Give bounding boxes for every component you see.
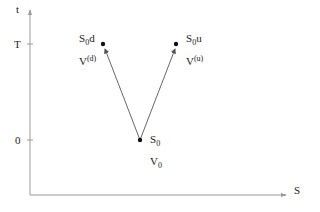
node-down bbox=[101, 42, 105, 46]
node-up bbox=[174, 42, 178, 46]
y-axis-label: t bbox=[16, 4, 19, 15]
arrow-down-branch bbox=[105, 49, 140, 140]
node-down-price-label: S0d bbox=[79, 33, 95, 47]
node-origin-value-label: V0 bbox=[150, 156, 162, 170]
node-origin-price-label: S0 bbox=[150, 134, 160, 148]
x-axis-label: S bbox=[294, 185, 300, 196]
node-down-value-label: V(d) bbox=[79, 55, 96, 67]
node-up-value-label: V(u) bbox=[186, 55, 203, 67]
tick-label-0: 0 bbox=[15, 135, 21, 146]
node-up-price-label: S0u bbox=[186, 33, 202, 47]
tick-label-T: T bbox=[14, 39, 21, 50]
node-origin bbox=[138, 138, 142, 142]
arrow-up-branch bbox=[140, 49, 175, 140]
binomial-tree-diagram bbox=[0, 0, 320, 212]
